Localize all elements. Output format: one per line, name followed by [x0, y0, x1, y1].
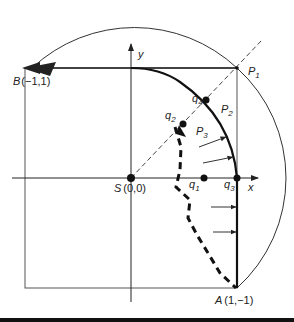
svg-text:q1: q1 — [189, 178, 200, 193]
point-q1 — [201, 175, 208, 182]
diagram-canvas: B(−1,1) S(0,0) A(1,−1) P1 P2 P3 q4 q2 q1… — [0, 0, 294, 322]
point-q3 — [234, 175, 241, 182]
point-S — [127, 174, 135, 182]
point-q4 — [203, 97, 210, 104]
svg-text:q2: q2 — [165, 109, 176, 124]
svg-text:P3: P3 — [196, 125, 208, 140]
svg-text:y: y — [137, 48, 145, 60]
diagram-svg: B(−1,1) S(0,0) A(1,−1) P1 P2 P3 q4 q2 q1… — [0, 0, 294, 322]
svg-text:S(0,0): S(0,0) — [114, 182, 146, 194]
diagonal-line — [131, 40, 262, 178]
svg-text:P1: P1 — [248, 65, 260, 80]
svg-text:B(−1,1): B(−1,1) — [13, 75, 50, 87]
point-q2 — [180, 121, 187, 128]
svg-text:q4: q4 — [192, 92, 203, 107]
svg-text:P2: P2 — [221, 103, 233, 118]
svg-text:x: x — [247, 181, 254, 193]
bottom-rule — [0, 318, 294, 322]
svg-text:A(1,−1): A(1,−1) — [214, 294, 253, 306]
point-P1 — [235, 66, 239, 70]
svg-text:q3: q3 — [224, 178, 235, 193]
